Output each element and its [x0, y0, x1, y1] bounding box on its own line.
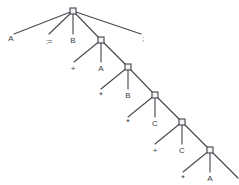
- leaf-label-l-a-2: A: [98, 64, 103, 73]
- leaf-label-l-plus-1: +: [71, 64, 76, 73]
- tree-edge: [155, 122, 182, 144]
- leaf-label-l-a-1: A: [8, 34, 13, 43]
- leaf-label-l-c-1: C: [152, 119, 158, 128]
- parse-tree-figure: A:=B;+A*B*C+C*A: [0, 0, 239, 185]
- tree-node-n6[interactable]: [207, 147, 213, 153]
- tree-edge: [73, 11, 141, 34]
- leaf-label-l-plus-2: +: [153, 146, 158, 155]
- tree-edge: [49, 11, 73, 34]
- tree-node-n2[interactable]: [98, 37, 104, 43]
- tree-edge: [128, 67, 155, 95]
- tree-edge: [101, 67, 128, 89]
- tree-edge: [101, 40, 128, 67]
- tree-edge: [155, 95, 182, 122]
- leaf-label-l-b-1: B: [70, 36, 75, 45]
- tree-node-n4[interactable]: [152, 92, 158, 98]
- leaf-label-l-semi: ;: [142, 34, 144, 43]
- leaf-label-l-star-1: *: [99, 91, 103, 100]
- leaf-label-l-a-3: A: [207, 174, 212, 183]
- tree-edge: [183, 150, 210, 172]
- leaf-label-l-b-2: B: [125, 91, 130, 100]
- tree-node-n1[interactable]: [70, 8, 76, 14]
- leaf-label-l-assign: :=: [46, 37, 52, 46]
- leaf-label-l-star-2: *: [126, 118, 130, 127]
- tree-edge: [182, 122, 210, 150]
- tree-edge: [74, 40, 101, 62]
- tree-graphics: [0, 0, 239, 185]
- tree-node-n5[interactable]: [179, 119, 185, 125]
- leaf-label-l-star-3: *: [181, 174, 185, 183]
- tree-edge: [128, 95, 155, 117]
- tree-node-n3[interactable]: [125, 64, 131, 70]
- tree-edge: [14, 11, 73, 34]
- leaf-label-l-c-2: C: [179, 146, 185, 155]
- tree-edge: [210, 150, 238, 178]
